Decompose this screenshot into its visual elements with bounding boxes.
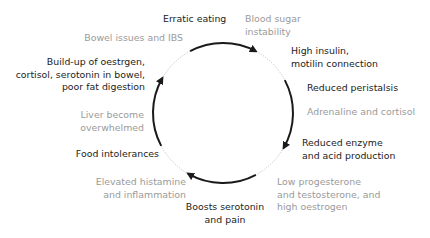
node-label-line: poor fat digestion	[16, 81, 145, 94]
node-blood-sugar: Blood sugar instability	[245, 13, 301, 38]
node-bowel-issues: Bowel issues and IBS	[84, 32, 183, 45]
node-reduced-enzyme: Reduced enzyme and acid production	[302, 137, 395, 162]
node-label-line: and acid production	[302, 150, 395, 163]
node-label-line: and testosterone, and	[277, 189, 380, 202]
dotted-circle	[153, 43, 293, 183]
node-food-intolerances: Food intolerances	[76, 148, 159, 161]
arrow-left-icon	[153, 78, 162, 146]
node-label-line: cortisol, serotonin in bowel,	[16, 69, 145, 82]
node-high-insulin: High insulin, motilin connection	[291, 45, 378, 70]
node-label-line: and pain	[180, 214, 270, 227]
node-label-line: instability	[245, 26, 301, 39]
cycle-diagram: Erratic eating Blood sugar instability H…	[0, 0, 430, 238]
arrow-right-icon	[284, 80, 293, 148]
arrow-top-icon	[190, 43, 256, 51]
arrow-bottom-icon	[188, 174, 256, 183]
node-adrenaline: Adrenaline and cortisol	[307, 106, 415, 119]
node-label-line: Elevated histamine	[96, 176, 186, 189]
node-erratic-eating: Erratic eating	[163, 13, 226, 26]
node-label-line: Blood sugar	[245, 13, 301, 26]
node-reduced-peristalsis: Reduced peristalsis	[307, 82, 398, 95]
node-label-line: High insulin,	[291, 45, 378, 58]
node-label-line: overwhelmed	[80, 122, 144, 135]
node-low-progesterone: Low progesterone and testosterone, and h…	[277, 176, 380, 214]
node-boosts-serotonin: Boosts serotonin and pain	[180, 201, 270, 226]
node-label: Reduced peristalsis	[307, 82, 398, 95]
node-label-line: Low progesterone	[277, 176, 380, 189]
node-label-line: Reduced enzyme	[302, 137, 395, 150]
node-elevated-histamine: Elevated histamine and inflammation	[96, 176, 186, 201]
node-label: Bowel issues and IBS	[84, 32, 183, 45]
node-build-up: Build-up of oestrgen, cortisol, serotoni…	[16, 56, 145, 94]
node-label: Erratic eating	[163, 13, 226, 26]
node-liver-overwhelmed: Liver become overwhelmed	[80, 109, 144, 134]
node-label: Adrenaline and cortisol	[307, 106, 415, 119]
node-label-line: Liver become	[80, 109, 144, 122]
node-label-line: motilin connection	[291, 58, 378, 71]
node-label-line: high oestrogen	[277, 201, 380, 214]
node-label: Food intolerances	[76, 148, 159, 161]
node-label-line: Boosts serotonin	[180, 201, 270, 214]
node-label-line: and inflammation	[96, 189, 186, 202]
node-label-line: Build-up of oestrgen,	[16, 56, 145, 69]
